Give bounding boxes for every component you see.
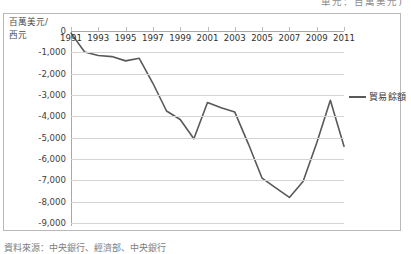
x-axis-tick-label: 1997: [142, 33, 164, 43]
x-axis-tick-mark: [262, 27, 263, 31]
x-axis-tick-mark: [126, 27, 127, 31]
x-axis-tick-mark: [153, 27, 154, 31]
x-axis-tick-label: 2007: [278, 33, 300, 43]
x-axis-tick-label: 2003: [224, 33, 246, 43]
x-axis-tick-mark: [98, 27, 99, 31]
x-axis-tick-mark: [344, 27, 345, 31]
y-axis-tick-label: -1,000: [38, 47, 66, 57]
y-axis-tick-label: -5,000: [38, 133, 66, 143]
gridline: -9,000: [71, 223, 344, 224]
x-axis-tick-label: 1995: [115, 33, 137, 43]
y-axis-tick-label: -2,000: [38, 69, 66, 79]
gridline: -1,000: [71, 52, 344, 53]
x-axis-tick-mark: [235, 27, 236, 31]
series-line-chart: [71, 31, 344, 223]
gridline: -2,000: [71, 74, 344, 75]
x-axis-tick-mark: [208, 27, 209, 31]
gridline: -3,000: [71, 95, 344, 96]
y-axis-tick-label: -6,000: [38, 154, 66, 164]
gridline: -8,000: [71, 202, 344, 203]
axis-title-line1: 百萬美元/: [9, 17, 48, 27]
x-axis-tick-label: 2009: [306, 33, 328, 43]
x-axis-tick-mark: [289, 27, 290, 31]
x-axis-tick-label: 1999: [169, 33, 191, 43]
chart-frame: 百萬美元/ 西元 0-1,000-2,000-3,000-4,000-5,000…: [3, 13, 401, 231]
y-axis-tick-label: -7,000: [38, 175, 66, 185]
legend-color-swatch: [349, 96, 366, 98]
gridline: -6,000: [71, 159, 344, 160]
x-axis-tick-label: 1991: [60, 33, 82, 43]
y-axis-tick-label: -8,000: [38, 197, 66, 207]
x-axis-tick-label: 2011: [333, 33, 355, 43]
series-line: [71, 33, 344, 197]
gridline: -5,000: [71, 138, 344, 139]
x-axis-tick-mark: [71, 27, 72, 31]
plot-area: 0-1,000-2,000-3,000-4,000-5,000-6,000-7,…: [71, 31, 344, 223]
source-caption: 資料來源：中央銀行、經濟部、中央銀行: [4, 241, 166, 254]
unit-note: 單元：百萬美元): [321, 0, 403, 8]
chart-legend: 貿易餘額: [349, 90, 407, 103]
axis-title-line2: 西元: [9, 29, 48, 42]
x-axis-tick-mark: [317, 27, 318, 31]
gridline: 0: [71, 31, 344, 32]
y-axis-tick-label: -3,000: [38, 90, 66, 100]
gridline: -4,000: [71, 116, 344, 117]
gridline: -7,000: [71, 180, 344, 181]
y-axis-tick-label: -4,000: [38, 111, 66, 121]
x-axis-tick-label: 2005: [251, 33, 273, 43]
x-axis-tick-mark: [180, 27, 181, 31]
x-axis-tick-label: 1993: [87, 33, 109, 43]
axis-title-block: 百萬美元/ 西元: [9, 16, 48, 42]
x-axis-tick-label: 2001: [197, 33, 219, 43]
y-axis-tick-label: -9,000: [38, 218, 66, 228]
legend-label: 貿易餘額: [369, 90, 407, 103]
